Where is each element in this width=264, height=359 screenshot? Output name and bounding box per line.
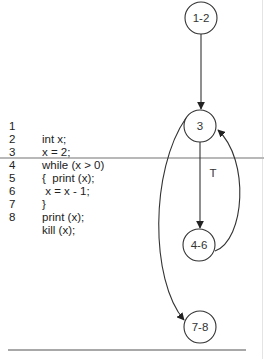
- edge-3-to-7-8: [159, 118, 186, 320]
- node-label: 3: [197, 120, 203, 132]
- control-flow-graph: T 1-2 3 4-6 7-8: [0, 0, 264, 359]
- node-3: 3: [184, 110, 216, 142]
- edge-4-6-to-3: [215, 130, 240, 251]
- node-7-8: 7-8: [184, 311, 216, 343]
- node-label: 4-6: [191, 239, 208, 251]
- node-4-6: 4-6: [183, 229, 215, 261]
- node-1-2: 1-2: [185, 2, 217, 34]
- node-label: 7-8: [192, 321, 209, 333]
- true-branch-label: T: [209, 167, 216, 179]
- node-label: 1-2: [193, 12, 210, 24]
